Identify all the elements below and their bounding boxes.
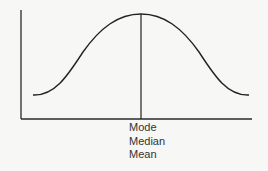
mode-label: Mode bbox=[129, 121, 165, 135]
median-label: Median bbox=[129, 135, 165, 149]
mean-label: Mean bbox=[129, 148, 165, 162]
center-labels: Mode Median Mean bbox=[129, 121, 165, 162]
